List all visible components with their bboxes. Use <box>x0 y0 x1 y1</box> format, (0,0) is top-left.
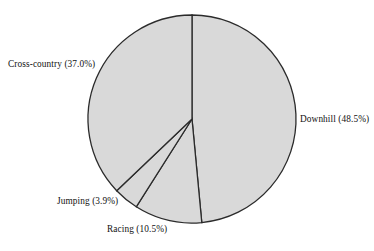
slice-label-jumping: Jumping (3.9%) <box>57 196 118 207</box>
pie-chart-canvas <box>0 0 374 251</box>
pie-chart: Cross-country (37.0%) Downhill (48.5%) J… <box>0 0 374 251</box>
slice-label-cross-country: Cross-country (37.0%) <box>8 59 95 70</box>
pie-slice-group <box>88 15 296 223</box>
slice-label-racing: Racing (10.5%) <box>107 224 167 235</box>
pie-slice-downhill <box>192 15 296 223</box>
slice-label-downhill: Downhill (48.5%) <box>300 114 369 125</box>
